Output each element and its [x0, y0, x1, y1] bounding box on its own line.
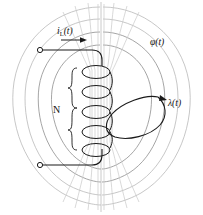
- turns-label: N: [53, 104, 60, 115]
- current-label: iL(t): [57, 26, 73, 37]
- flux-linkage-contour-group: [106, 95, 167, 138]
- coil-winding: [82, 66, 112, 157]
- figure-container: iL(t) φ(t) λ(t) N: [0, 0, 203, 215]
- flux-label: φ(t): [150, 37, 164, 48]
- core-field-line-2: [107, 3, 114, 210]
- turns-brace-lower: [68, 108, 77, 150]
- coil-turn-4: [82, 126, 110, 139]
- coil-turn-3: [82, 106, 110, 119]
- terminal-top: [37, 47, 42, 52]
- current-label-argument: (t): [64, 26, 73, 37]
- flux-line-left-2: [38, 32, 101, 182]
- terminal-bottom: [37, 162, 42, 167]
- coil-turn-1: [82, 66, 110, 79]
- flux-line-right-1: [102, 45, 152, 169]
- turns-brace: [68, 68, 77, 108]
- inductor-flux-diagram: iL(t) φ(t) λ(t) N: [0, 0, 203, 215]
- core-field-line-6: [112, 12, 139, 202]
- coil-turn-5: [82, 144, 110, 157]
- flux-linkage-label: λ(t): [167, 98, 181, 109]
- flux-linkage-contour: [106, 96, 165, 138]
- figure-caption: [0, 203, 203, 215]
- flux-linkage-arrow-head: [159, 95, 167, 101]
- coil-turn-2: [82, 86, 110, 99]
- turns-brace-group: [68, 68, 77, 150]
